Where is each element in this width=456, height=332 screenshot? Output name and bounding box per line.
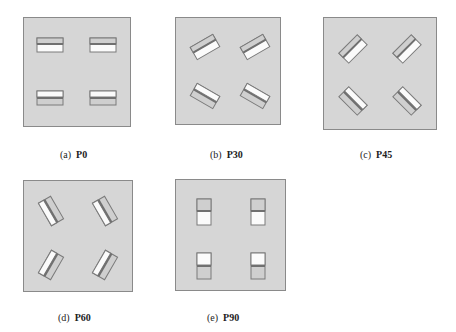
caption-tag: (e): [207, 312, 218, 323]
element-icon: [90, 38, 116, 52]
caption-tag: (c): [360, 149, 371, 160]
element-icon: [251, 199, 265, 225]
element-icon: [90, 91, 116, 105]
rectangle-layout-diagram: [175, 17, 281, 125]
caption-p0: (a)P0: [60, 149, 87, 160]
caption-tag: (d): [58, 312, 70, 323]
element-icon: [197, 199, 211, 225]
element-icon: [197, 253, 211, 279]
caption-name: P30: [227, 149, 243, 160]
panel-p30: [175, 17, 281, 125]
panel-p90: [175, 179, 286, 291]
caption-name: P60: [75, 312, 91, 323]
rectangle-layout-diagram: [175, 179, 286, 291]
caption-p30: (b)P30: [210, 149, 243, 160]
element-icon: [37, 38, 63, 52]
caption-p90: (e)P90: [207, 312, 239, 323]
caption-name: P45: [376, 149, 392, 160]
caption-name: P90: [223, 312, 239, 323]
panel-p45: [323, 17, 437, 130]
rectangle-layout-diagram: [23, 17, 131, 127]
element-icon: [251, 253, 265, 279]
panel-p0: [23, 17, 131, 127]
caption-tag: (a): [60, 149, 71, 160]
panel-p60: [23, 180, 133, 292]
caption-name: P0: [76, 149, 87, 160]
rectangle-layout-diagram: [323, 17, 437, 130]
caption-tag: (b): [210, 149, 222, 160]
rectangle-layout-diagram: [23, 180, 133, 292]
element-icon: [37, 91, 63, 105]
caption-p60: (d)P60: [58, 312, 91, 323]
caption-p45: (c)P45: [360, 149, 392, 160]
